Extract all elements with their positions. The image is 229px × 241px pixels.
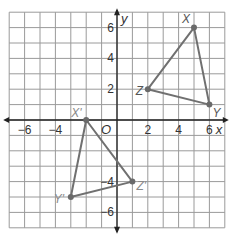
tick-labels: yx−6−4246642−4−6O — [18, 11, 223, 219]
vertex-label: X' — [70, 106, 82, 120]
x-tick-label: −6 — [18, 123, 32, 137]
x-tick-label: −4 — [49, 123, 63, 137]
vertex-point — [145, 86, 151, 92]
x-axis-right-arrow-icon — [223, 117, 229, 123]
vertex-label: Z' — [135, 179, 146, 193]
y-axis-label: y — [120, 11, 129, 26]
origin-label: O — [101, 122, 111, 137]
x-axis-label: x — [215, 122, 223, 137]
vertex-label: Y' — [54, 192, 65, 206]
axes — [3, 8, 229, 234]
y-tick-label: 2 — [107, 82, 114, 96]
y-tick-label: −6 — [100, 205, 114, 219]
x-tick-label: 4 — [175, 123, 182, 137]
coordinate-plane: yx−6−4246642−4−6O XYZX'Y'Z' — [0, 0, 229, 241]
vertex-label: X — [181, 12, 191, 26]
vertex-label: Y — [212, 106, 221, 120]
vertex-point — [191, 25, 197, 31]
y-tick-label: 6 — [107, 21, 114, 35]
vertex-label: Z — [135, 84, 144, 98]
vertex-point — [68, 194, 74, 200]
vertex-point — [83, 117, 89, 123]
y-tick-label: 4 — [107, 51, 114, 65]
x-tick-label: 6 — [206, 123, 213, 137]
y-axis-down-arrow-icon — [114, 227, 120, 234]
x-tick-label: 2 — [144, 123, 151, 137]
vertex-point — [129, 179, 135, 185]
x-axis-left-arrow-icon — [3, 117, 9, 123]
triangles — [68, 25, 213, 200]
